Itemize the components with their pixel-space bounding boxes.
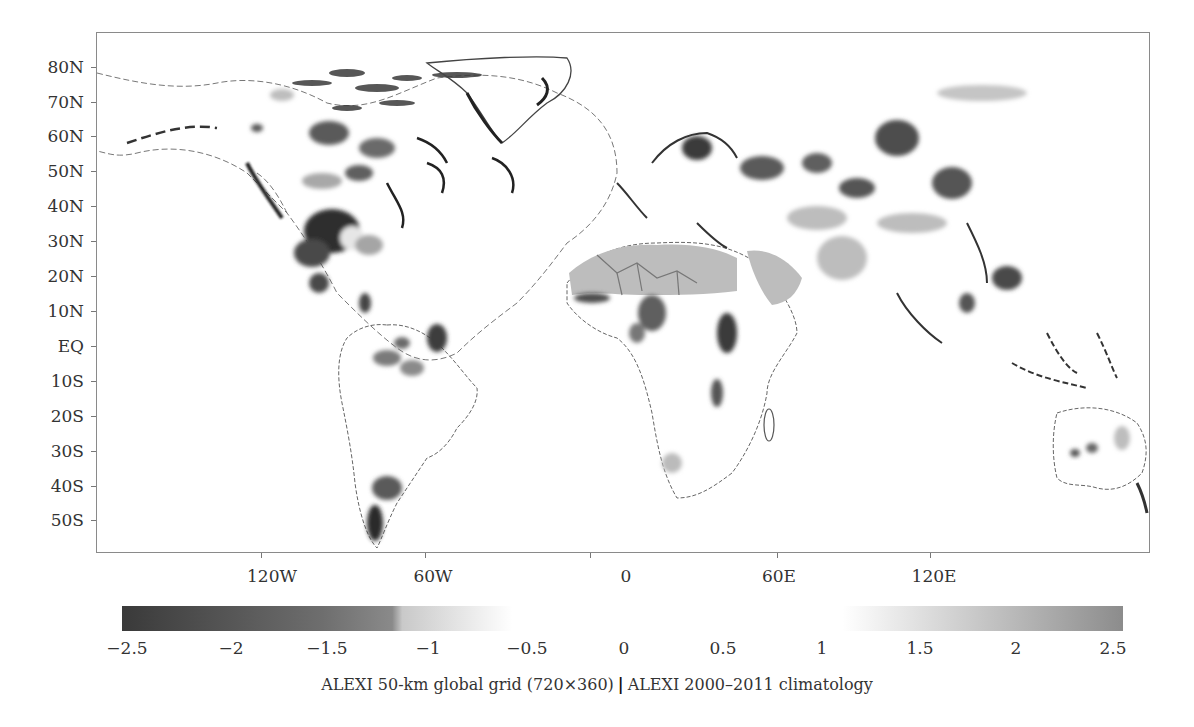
x-tick-mark	[930, 553, 931, 558]
coast-dark	[127, 127, 217, 143]
y-tick-label: 60N	[34, 126, 84, 146]
y-tick-label: 50N	[34, 161, 84, 181]
x-tick-label: 60W	[393, 566, 473, 586]
y-tick-label: 80N	[34, 57, 84, 77]
y-tick-label: EQ	[34, 336, 84, 356]
north-america	[97, 73, 617, 360]
colorbar	[122, 606, 1123, 631]
x-tick-label: 120E	[894, 566, 974, 586]
sahara	[569, 245, 737, 295]
africa-anomalies	[574, 293, 737, 473]
colorbar-tick-label: 2.5	[1083, 638, 1143, 658]
colorbar-tick-label: −1	[398, 638, 458, 658]
x-tick-label: 60E	[739, 566, 819, 586]
y-tick-label: 30S	[34, 441, 84, 461]
colorbar-tick-label: −2.5	[97, 638, 157, 658]
na-coast-fragments	[387, 138, 513, 228]
y-tick-label: 20S	[34, 406, 84, 426]
x-tick-mark	[425, 553, 426, 558]
y-tick-label: 30N	[34, 231, 84, 251]
figure: 80N 70N 60N 50N 40N 30N 20N 10N EQ 10S 2…	[0, 0, 1194, 727]
y-tick-label: 20N	[34, 266, 84, 286]
colorbar-tick-label: −0.5	[497, 638, 557, 658]
colorbar-tick-label: −2	[201, 638, 261, 658]
y-tick-label: 40S	[34, 476, 84, 496]
y-tick-label: 50S	[34, 510, 84, 530]
x-tick-label: 0	[586, 566, 666, 586]
australia-anomalies	[1070, 426, 1130, 457]
colorbar-tick-label: 1.5	[890, 638, 950, 658]
caption-climatology: ALEXI 2000–2011 climatology	[628, 675, 873, 694]
colorbar-tick-label: 2	[986, 638, 1046, 658]
figure-caption: ALEXI 50-km global grid (720×360)|ALEXI …	[0, 675, 1194, 695]
se-asia-islands	[1012, 333, 1117, 388]
australia	[1053, 408, 1146, 490]
x-tick-label: 120W	[232, 566, 312, 586]
arabia	[747, 250, 802, 305]
new-zealand	[1137, 483, 1147, 513]
colorbar-tick-label: 1	[792, 638, 852, 658]
caption-separator: |	[614, 675, 628, 694]
x-tick-mark	[777, 553, 778, 558]
madagascar	[764, 409, 774, 441]
arctic-islands	[292, 69, 482, 111]
south-america	[339, 325, 478, 548]
y-tick-label: 10S	[34, 371, 84, 391]
x-tick-mark	[261, 553, 262, 558]
sa-anomalies	[367, 324, 447, 541]
map-plot-area	[96, 32, 1150, 553]
greenland	[427, 57, 571, 143]
y-tick-label: 40N	[34, 196, 84, 216]
y-tick-label: 10N	[34, 301, 84, 321]
colorbar-tick-label: 0.5	[693, 638, 753, 658]
colorbar-tick-label: −1.5	[297, 638, 357, 658]
y-tick-label: 70N	[34, 92, 84, 112]
caption-grid: ALEXI 50-km global grid (720×360)	[321, 675, 614, 694]
x-tick-mark	[590, 553, 591, 558]
eurasia-coast	[617, 133, 987, 343]
colorbar-tick-label: 0	[594, 638, 654, 658]
global-map	[97, 33, 1149, 552]
coast-dark	[247, 163, 282, 218]
